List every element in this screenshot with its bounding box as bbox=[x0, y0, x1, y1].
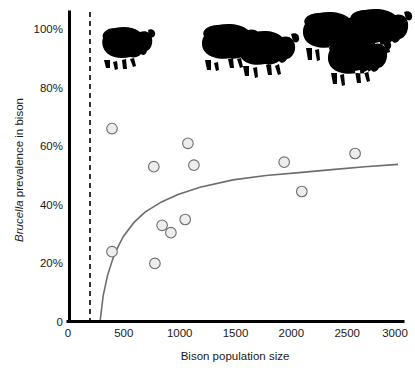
y-tick-label-80: 80% bbox=[40, 82, 63, 94]
data-point[interactable] bbox=[297, 186, 308, 197]
data-point[interactable] bbox=[180, 214, 191, 225]
y-tick-label-40: 40% bbox=[40, 199, 63, 211]
data-point[interactable] bbox=[107, 246, 118, 257]
y-axis-title: Brucella prevalence in bison bbox=[13, 98, 25, 242]
data-point[interactable] bbox=[157, 220, 168, 231]
fit-curve bbox=[100, 164, 398, 322]
y-tick-label-100: 100% bbox=[34, 23, 63, 35]
y-tick-label-20: 20% bbox=[40, 257, 63, 269]
y-axis-title-rest: prevalence in bison bbox=[13, 98, 25, 200]
y-tick-label-60: 60% bbox=[40, 140, 63, 152]
x-tick-label-2500: 2500 bbox=[334, 327, 360, 339]
data-point[interactable] bbox=[107, 123, 118, 134]
data-point[interactable] bbox=[149, 161, 160, 172]
data-point[interactable] bbox=[189, 160, 200, 171]
data-point[interactable] bbox=[279, 157, 290, 168]
y-tick-label-0: 0 bbox=[57, 316, 63, 328]
chart-canvas: 100% 80% 60% 40% 20% 0 0 500 1000 1500 2… bbox=[0, 0, 415, 376]
data-point[interactable] bbox=[350, 148, 361, 159]
bison-herd-large-icon bbox=[303, 9, 412, 86]
y-axis-title-italic: Brucella bbox=[13, 200, 25, 242]
x-tick-label-2000: 2000 bbox=[279, 327, 305, 339]
data-point[interactable] bbox=[150, 258, 161, 269]
data-point[interactable] bbox=[166, 227, 177, 238]
data-point[interactable] bbox=[183, 138, 194, 149]
x-tick-label-1000: 1000 bbox=[167, 327, 193, 339]
svg-text:Brucella prevalence in bison: Brucella prevalence in bison bbox=[13, 98, 25, 242]
x-tick-label-0: 0 bbox=[65, 327, 71, 339]
x-tick-label-3000: 3000 bbox=[382, 327, 408, 339]
data-points-group bbox=[107, 123, 361, 268]
x-axis-title: Bison population size bbox=[181, 350, 290, 362]
scatter-chart-figure: 100% 80% 60% 40% 20% 0 0 500 1000 1500 2… bbox=[0, 0, 415, 376]
bison-herd-small-icon bbox=[102, 27, 155, 70]
x-tick-label-500: 500 bbox=[114, 327, 133, 339]
bison-herd-medium-icon bbox=[202, 24, 299, 78]
x-tick-label-1500: 1500 bbox=[223, 327, 249, 339]
